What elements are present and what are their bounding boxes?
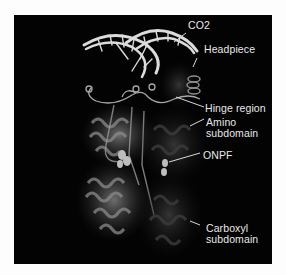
- label-onpf-text: ONPF: [203, 150, 233, 161]
- label-hinge-region: Hinge region: [205, 103, 266, 114]
- label-co2-text: CO2: [188, 20, 210, 31]
- molecular-structure-panel: CO2 Headpiece Hinge region Amino subdoma…: [14, 15, 272, 264]
- label-onpf: ONPF: [203, 150, 233, 161]
- label-amino-line2: subdomain: [206, 128, 258, 139]
- label-hinge-region-text: Hinge region: [205, 103, 266, 114]
- label-amino-subdomain: Amino subdomain: [206, 117, 258, 139]
- label-headpiece: Headpiece: [204, 44, 255, 55]
- label-headpiece-text: Headpiece: [204, 44, 255, 55]
- label-carboxyl-line2: subdomain: [206, 234, 258, 245]
- figure: CO2 Headpiece Hinge region Amino subdoma…: [0, 0, 286, 275]
- label-co2: CO2: [188, 20, 210, 31]
- right-monomer: [135, 61, 210, 259]
- label-carboxyl-subdomain: Carboxyl subdomain: [206, 223, 258, 245]
